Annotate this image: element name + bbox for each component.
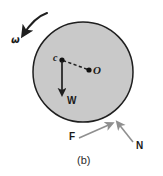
physics-free-body-diagram-figure: ω c O W F N (b)	[0, 0, 163, 176]
weight-label: W	[67, 96, 76, 106]
geometric-center-label: O	[93, 65, 101, 76]
geometric-center-point	[86, 67, 91, 72]
angular-velocity-arc	[23, 13, 47, 35]
friction-label: F	[69, 132, 75, 142]
normal-vector-arrow	[118, 123, 134, 143]
figure-caption: (b)	[77, 155, 90, 166]
rotating-disk	[33, 22, 133, 122]
friction-vector-arrow	[79, 124, 112, 139]
angular-velocity-label: ω	[11, 35, 20, 46]
center-of-mass-label: c	[53, 53, 57, 63]
normal-force-label: N	[136, 141, 143, 151]
